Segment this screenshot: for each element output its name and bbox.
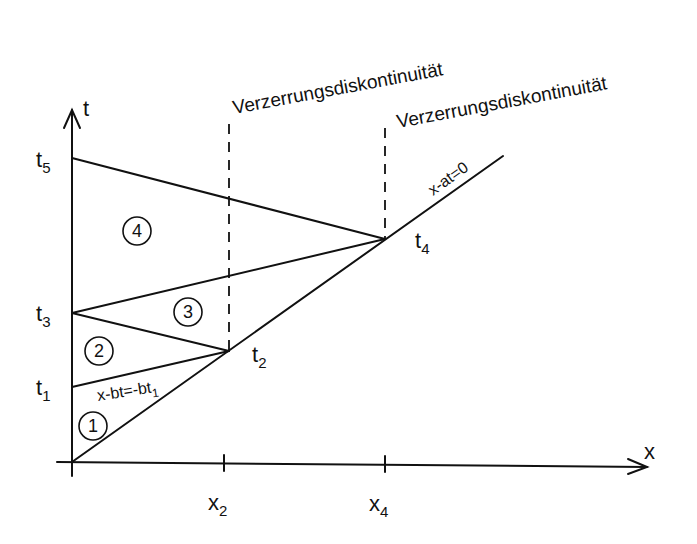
t-axis: t bbox=[64, 96, 89, 476]
x-axis-label: x bbox=[644, 439, 655, 464]
svg-text:3: 3 bbox=[183, 302, 193, 322]
region-2-marker: 2 bbox=[85, 337, 113, 365]
wave-reflection-diagram: t x x2 x4 t5 t3 t1 x-at=0 x-bt=-bt1 Verz… bbox=[0, 0, 697, 544]
svg-text:2: 2 bbox=[94, 341, 104, 361]
x4-tick-label: x4 bbox=[369, 491, 388, 520]
region-3-marker: 3 bbox=[174, 298, 202, 326]
t1-label: t1 bbox=[36, 375, 50, 404]
characteristic-a-label: x-at=0 bbox=[425, 158, 472, 198]
t4-point-label: t4 bbox=[415, 228, 429, 257]
x2-tick-label: x2 bbox=[208, 490, 227, 519]
t3-label: t3 bbox=[36, 301, 50, 330]
characteristic-line-a bbox=[72, 156, 503, 462]
region-4-marker: 4 bbox=[123, 217, 151, 245]
t2-point-label: t2 bbox=[252, 342, 266, 371]
t5-label: t5 bbox=[36, 147, 50, 176]
characteristic-b-label: x-bt=-bt1 bbox=[96, 378, 160, 409]
x-axis: x bbox=[57, 439, 655, 474]
t-axis-label: t bbox=[83, 96, 89, 121]
region-1-marker: 1 bbox=[79, 412, 107, 440]
svg-text:4: 4 bbox=[132, 221, 142, 241]
svg-text:1: 1 bbox=[88, 416, 98, 436]
